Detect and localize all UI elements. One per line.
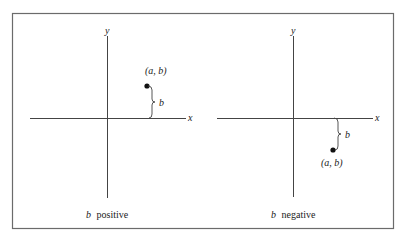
point-label: (a, b) bbox=[321, 157, 343, 169]
distance-label: b bbox=[159, 97, 164, 108]
distance-label: b bbox=[345, 129, 350, 140]
distance-brace bbox=[148, 86, 155, 118]
y-axis-label: y bbox=[104, 25, 110, 36]
figure-frame bbox=[13, 14, 394, 229]
coordinate-figure: y x (a, b) b b positive y x b (a, b) b n… bbox=[0, 0, 406, 238]
panel-b-positive: y x (a, b) b b positive bbox=[30, 25, 193, 220]
caption-word: positive bbox=[97, 209, 129, 220]
caption-b-negative: b negative bbox=[271, 209, 316, 220]
caption-word: negative bbox=[282, 209, 316, 220]
point-label: (a, b) bbox=[145, 65, 167, 77]
y-axis-label: y bbox=[290, 25, 296, 36]
x-axis-label: x bbox=[374, 112, 380, 123]
caption-var: b bbox=[86, 209, 91, 220]
panel-b-negative: y x b (a, b) b negative bbox=[217, 25, 380, 220]
point-a-b bbox=[330, 147, 335, 152]
caption-var: b bbox=[271, 209, 276, 220]
x-axis-label: x bbox=[187, 112, 193, 123]
caption-b-positive: b positive bbox=[86, 209, 129, 220]
distance-brace bbox=[334, 118, 341, 150]
